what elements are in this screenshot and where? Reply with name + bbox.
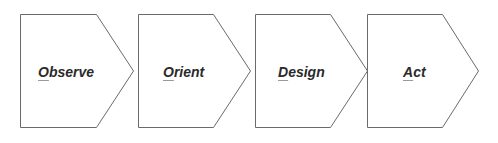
step-label-orient: Orient: [163, 64, 204, 80]
mnemonic-letter: O: [38, 64, 49, 80]
mnemonic-letter: O: [163, 64, 174, 80]
mnemonic-letter: D: [278, 64, 288, 80]
mnemonic-letter: A: [403, 64, 413, 80]
step-label-observe: Observe: [38, 64, 94, 80]
step-label-design: Design: [278, 64, 325, 80]
step-label-act: Act: [403, 64, 426, 80]
